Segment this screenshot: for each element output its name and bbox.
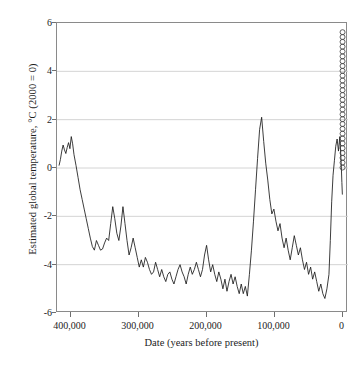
projection-marker xyxy=(340,35,345,40)
projection-marker xyxy=(340,107,345,112)
projection-marker xyxy=(340,30,345,35)
data-series-group xyxy=(59,117,342,298)
plot-area xyxy=(56,22,347,312)
x-tick-label: 300,000 xyxy=(121,320,154,331)
projection-marker xyxy=(340,97,345,102)
x-tick-label: 400,000 xyxy=(53,320,86,331)
projection-marker xyxy=(340,126,345,131)
gridlines xyxy=(57,71,348,264)
projection-marker xyxy=(340,122,345,127)
projection-marker xyxy=(340,141,345,146)
projection-marker xyxy=(340,73,345,78)
y-axis-title: Estimated global temperature, °C (2000 =… xyxy=(22,4,44,314)
y-tick-mark xyxy=(52,312,56,313)
projection-marker xyxy=(340,83,345,88)
projection-marker xyxy=(340,39,345,44)
projection-marker xyxy=(340,102,345,107)
projection-marker xyxy=(340,112,345,117)
projection-marker xyxy=(340,88,345,93)
projection-marker xyxy=(340,59,345,64)
data-plot xyxy=(57,23,348,313)
projection-marker xyxy=(340,131,345,136)
projection-marker xyxy=(340,136,345,141)
x-tick-label: 100,000 xyxy=(257,320,290,331)
temperature-line xyxy=(59,117,342,298)
x-tick-label: 200,000 xyxy=(189,320,222,331)
projection-marker xyxy=(340,49,345,54)
chart-figure: Estimated global temperature, °C (2000 =… xyxy=(0,0,363,365)
x-tick-label: 0 xyxy=(339,320,344,331)
projection-marker xyxy=(340,93,345,98)
projection-marker xyxy=(340,78,345,83)
projection-marker xyxy=(340,44,345,49)
x-axis-title: Date (years before present) xyxy=(56,337,347,348)
projection-marker xyxy=(340,54,345,59)
projection-marker xyxy=(340,64,345,69)
